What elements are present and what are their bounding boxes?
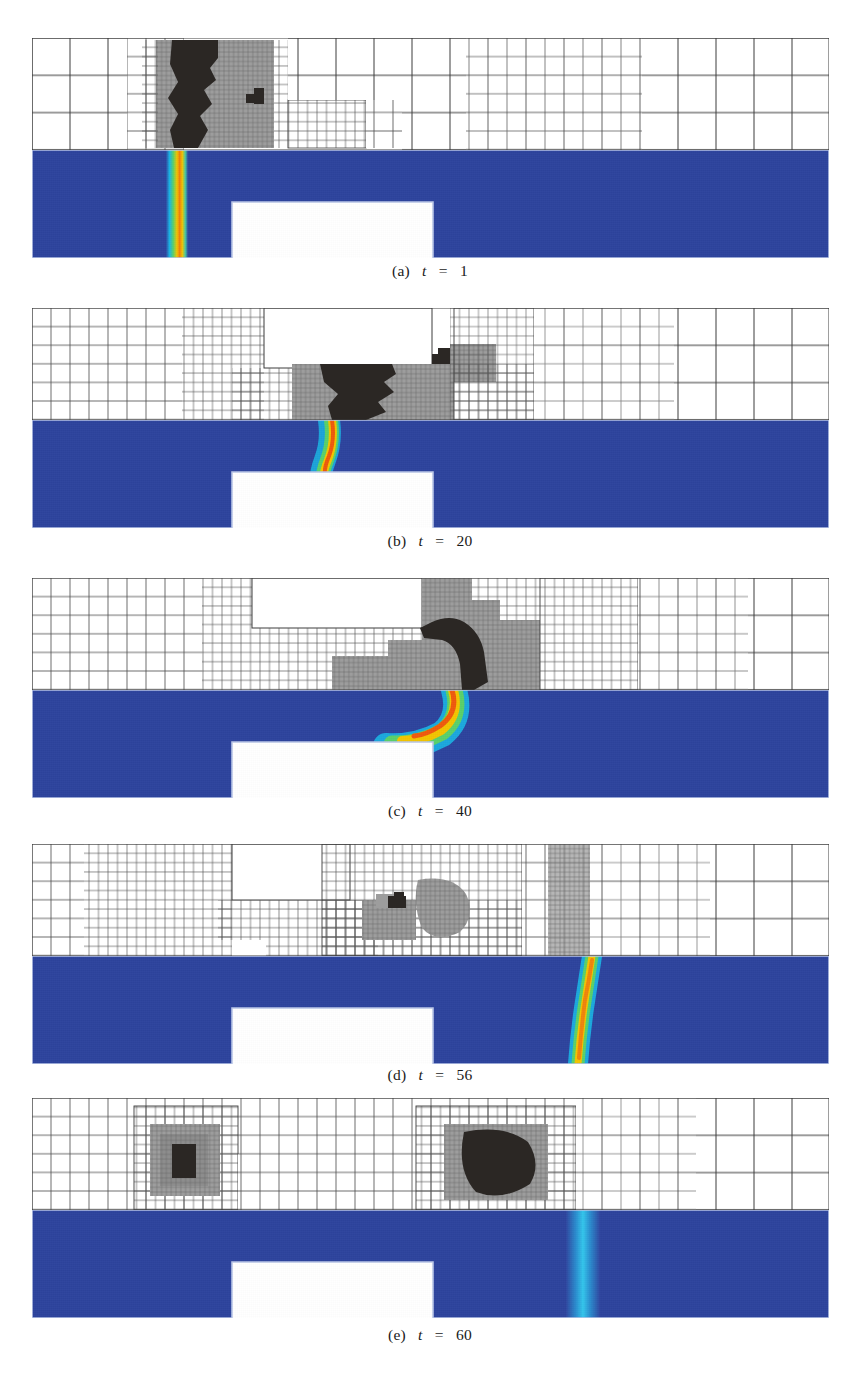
- panel-e: (e) t = 60: [0, 1070, 860, 1376]
- amr-grid-d: [32, 844, 829, 956]
- panel-c-mesh: [32, 578, 829, 690]
- panel-c-stage: [32, 578, 829, 798]
- panel-e-mesh: [32, 1098, 829, 1210]
- panel-c: (c) t = 40: [0, 540, 860, 835]
- amr-grid-e: [32, 1098, 829, 1210]
- fluid-domain-c: [32, 690, 829, 798]
- panel-a: (a) t = 1: [0, 0, 860, 295]
- panel-b-stage: [32, 308, 829, 528]
- panel-d-mesh: [32, 844, 829, 956]
- panel-b: (b) t = 20: [0, 270, 860, 565]
- panel-d: (d) t = 56: [0, 808, 860, 1098]
- plume-e: [566, 1210, 600, 1318]
- plume-a: [166, 150, 188, 258]
- caption-e: (e) t = 60: [0, 1326, 860, 1344]
- caption-e-var: t: [418, 1326, 423, 1343]
- panel-d-stage: [32, 844, 829, 1064]
- panel-a-mesh: [32, 38, 829, 150]
- fine-refinement-blob-e-left: [172, 1144, 196, 1178]
- panel-e-fluid: [32, 1210, 829, 1318]
- panel-b-fluid: [32, 420, 829, 528]
- figure-multipanel-simulation: (a) t = 1: [0, 0, 860, 1376]
- panel-a-fluid: [32, 150, 829, 258]
- caption-e-eq: =: [435, 1326, 444, 1343]
- caption-e-value: 60: [456, 1326, 472, 1343]
- amr-grid-b: [32, 308, 829, 420]
- caption-e-label: (e): [388, 1326, 406, 1343]
- panel-d-fluid: [32, 956, 829, 1064]
- amr-grid-a: [32, 38, 829, 150]
- panel-a-stage: [32, 38, 829, 258]
- fluid-domain-b: [32, 420, 829, 528]
- panel-e-stage: [32, 1098, 829, 1318]
- amr-grid-c: [32, 578, 829, 690]
- panel-b-mesh: [32, 308, 829, 420]
- fluid-domain-d: [32, 956, 829, 1064]
- fluid-domain-a: [32, 150, 829, 258]
- plume-b: [321, 420, 334, 486]
- fluid-domain-e: [32, 1210, 829, 1318]
- panel-c-fluid: [32, 690, 829, 798]
